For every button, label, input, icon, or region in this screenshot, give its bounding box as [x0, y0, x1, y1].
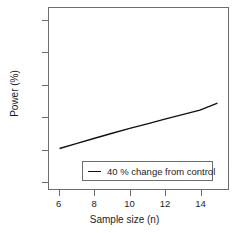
x-axis-tick-label: 6 [39, 199, 79, 209]
x-axis-title: Sample size (n) [0, 214, 249, 225]
legend-label: 40 % change from control [107, 166, 215, 177]
x-axis-tick [59, 190, 60, 196]
x-axis-tick-label: 8 [74, 199, 114, 209]
x-axis-tick [165, 190, 166, 196]
power-curve-figure: 020406080100 68101214 40 % change from c… [0, 0, 249, 233]
x-axis-tick-label: 14 [181, 199, 221, 209]
y-axis-title: Power (%) [9, 34, 20, 154]
series-line-40-percent [60, 103, 218, 148]
x-axis-tick-label: 12 [145, 199, 185, 209]
x-axis-tick [130, 190, 131, 196]
legend-box: 40 % change from control [82, 161, 213, 181]
x-axis-tick-label: 10 [110, 199, 150, 209]
x-axis-tick [94, 190, 95, 196]
x-axis-tick [201, 190, 202, 196]
legend-line-swatch [88, 171, 101, 172]
